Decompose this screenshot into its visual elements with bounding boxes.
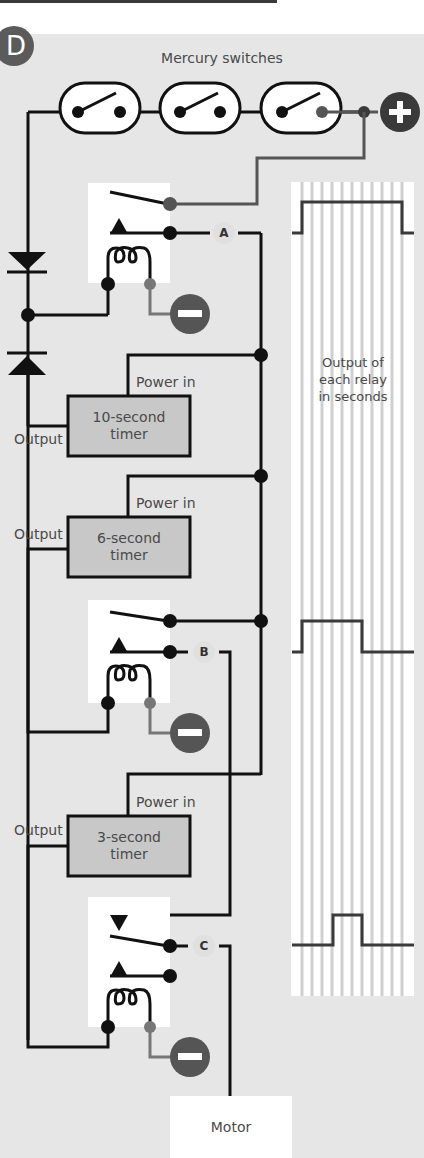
mercury-switch-1 <box>60 83 140 133</box>
relay-c <box>88 897 190 1057</box>
timer-10s-text: 10-second timer <box>68 409 190 443</box>
diode-2-icon <box>7 353 47 375</box>
timer-6s-output-label: Output <box>14 526 63 542</box>
relay-a-label: A <box>214 223 234 243</box>
relay-b <box>88 600 268 733</box>
timer-3s-text: 3-second timer <box>68 829 190 863</box>
circuit-diagram <box>0 0 424 1158</box>
timer-6s-text: 6-second timer <box>68 530 190 564</box>
timer-3s-output-label: Output <box>14 822 63 838</box>
minus-terminal-a-icon <box>170 294 210 334</box>
plus-terminal-icon <box>380 92 420 132</box>
timer-10s-power-label: Power in <box>136 374 196 390</box>
mercury-switch-2 <box>160 83 240 133</box>
timer-6s-power-label: Power in <box>136 495 196 511</box>
motor-box: Motor <box>170 1096 292 1158</box>
timer-10s-output-label: Output <box>14 431 63 447</box>
diode-1-icon <box>7 252 47 272</box>
minus-terminal-b-icon <box>170 713 210 753</box>
timing-legend: Output of each relay in seconds <box>292 354 414 405</box>
timer-3s-power-label: Power in <box>136 794 196 810</box>
mercury-switch-3 <box>261 83 341 133</box>
relay-c-label: C <box>194 936 214 956</box>
minus-terminal-c-icon <box>170 1037 210 1077</box>
timing-chart-background <box>291 182 414 996</box>
relay-b-label: B <box>194 642 214 662</box>
